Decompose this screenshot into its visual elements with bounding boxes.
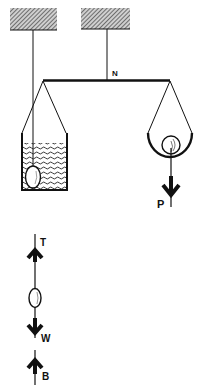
label-w: W: [41, 334, 50, 344]
ceiling-right: [81, 8, 130, 29]
submerged-object: [26, 166, 41, 188]
gravity-arrow-w: [28, 308, 42, 338]
balance-diagram: [0, 0, 206, 385]
label-b: B: [42, 372, 49, 382]
label-p: P: [157, 199, 164, 210]
label-t: T: [40, 238, 46, 248]
free-body-object: [29, 289, 41, 308]
label-n: N: [112, 70, 118, 78]
buoyancy-arrow-b: [28, 350, 42, 385]
ceiling-left: [10, 8, 57, 30]
